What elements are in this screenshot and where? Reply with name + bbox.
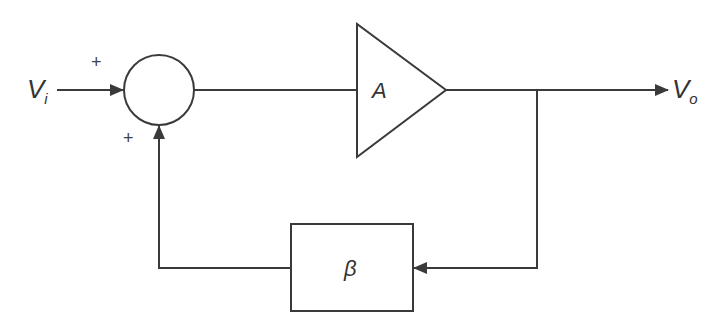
block-diagram [0, 0, 717, 326]
output-label: Vo [672, 74, 698, 105]
amplifier-triangle [357, 24, 446, 157]
feedback-return-line [159, 126, 291, 268]
feedback-block-label: β [344, 256, 357, 282]
amplifier-label: A [372, 78, 387, 104]
input-label: Vi [27, 74, 48, 105]
feedback-tap-line [414, 90, 537, 268]
feedback-plus-sign: + [123, 128, 134, 149]
input-symbol: V [27, 74, 44, 104]
output-subscript: o [689, 90, 697, 107]
input-plus-sign: + [91, 52, 102, 73]
summing-junction [124, 55, 194, 125]
input-subscript: i [44, 90, 47, 107]
output-symbol: V [672, 74, 689, 104]
